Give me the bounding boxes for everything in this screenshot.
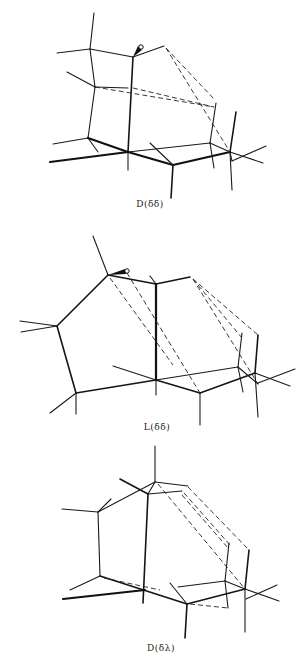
conformer-1-hydrogen-bonds bbox=[95, 48, 230, 152]
conformer-1-bonds bbox=[50, 13, 266, 198]
conformer-3-hydrogen-bonds bbox=[104, 484, 249, 608]
conformer-2-hydrogen-bonds bbox=[110, 273, 258, 393]
conformer-3-bonds bbox=[62, 446, 279, 638]
conformer-2-label: L(δδ) bbox=[117, 422, 197, 432]
molecular-structure-d-delta-delta bbox=[0, 0, 308, 663]
conformer-1-label: D(δδ) bbox=[110, 199, 190, 209]
conformer-2-bonds bbox=[20, 236, 295, 425]
conformer-3-label: D(δλ) bbox=[121, 643, 201, 653]
